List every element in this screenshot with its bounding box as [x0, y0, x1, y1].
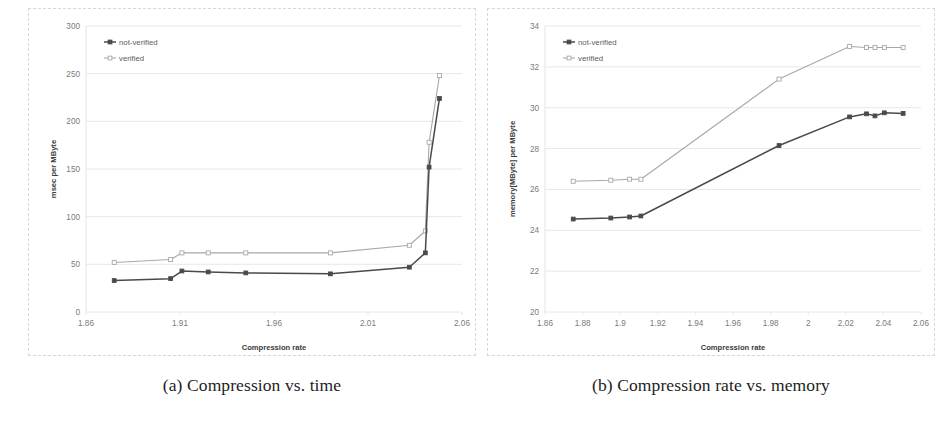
y-tick-label: 20: [530, 308, 540, 317]
y-tick-label: 0: [75, 308, 80, 317]
figure-container: 0501001502002503001.861.911.962.012.06Co…: [0, 0, 941, 429]
data-point-marker: [206, 270, 210, 274]
data-point-marker: [873, 45, 877, 49]
data-point-marker: [423, 251, 427, 255]
data-point-marker: [609, 178, 613, 182]
y-tick-label: 28: [530, 145, 540, 154]
x-tick-label: 1.88: [575, 319, 591, 328]
x-tick-label: 1.96: [266, 319, 282, 328]
y-tick-label: 50: [71, 260, 81, 269]
x-tick-label: 2.04: [875, 319, 891, 328]
x-tick-label: 2.06: [913, 319, 929, 328]
legend-label-verified: verified: [578, 54, 603, 63]
data-point-marker: [882, 111, 886, 115]
y-tick-label: 32: [530, 63, 540, 72]
caption-b: (b) Compression rate vs. memory: [487, 375, 935, 396]
data-point-marker: [438, 97, 442, 101]
y-axis-title: msec per MByte: [49, 140, 58, 198]
y-tick-label: 300: [66, 22, 80, 31]
legend-label-not-verified: not-verified: [119, 38, 158, 47]
data-point-marker: [865, 112, 869, 116]
data-point-marker: [169, 258, 173, 262]
x-tick-label: 1.86: [537, 319, 553, 328]
data-point-marker: [901, 112, 905, 116]
chart-panel-b: 20222426283032341.861.881.91.921.941.961…: [487, 8, 935, 363]
data-point-marker: [882, 45, 886, 49]
data-point-marker: [427, 140, 431, 144]
x-tick-label: 1.94: [687, 319, 703, 328]
data-point-marker: [864, 45, 868, 49]
x-tick-label: 1.92: [650, 319, 666, 328]
data-point-marker: [628, 215, 632, 219]
y-tick-label: 34: [530, 22, 540, 31]
y-tick-label: 250: [66, 70, 80, 79]
x-axis-title: Compression rate: [242, 343, 307, 352]
x-tick-label: 2.01: [360, 319, 376, 328]
data-point-marker: [112, 260, 116, 264]
chart-a-svg: 0501001502002503001.861.911.962.012.06Co…: [28, 8, 476, 356]
y-tick-label: 26: [530, 185, 540, 194]
data-point-marker: [169, 277, 173, 281]
data-point-marker: [848, 115, 852, 119]
caption-a: (a) Compression vs. time: [28, 375, 476, 396]
y-tick-label: 22: [530, 267, 540, 276]
x-tick-label: 1.96: [725, 319, 741, 328]
x-tick-label: 2.02: [838, 319, 854, 328]
data-point-marker: [407, 243, 411, 247]
data-point-marker: [180, 269, 184, 273]
data-point-marker: [180, 251, 184, 255]
series-line-not-verified: [573, 113, 903, 219]
data-point-marker: [206, 251, 210, 255]
data-point-marker: [628, 177, 632, 181]
data-point-marker: [777, 144, 781, 148]
data-point-marker: [112, 279, 116, 283]
data-point-marker: [437, 74, 441, 78]
y-tick-label: 200: [66, 117, 80, 126]
y-tick-label: 24: [530, 226, 540, 235]
data-point-marker: [329, 272, 333, 276]
data-point-marker: [244, 271, 248, 275]
data-point-marker: [901, 45, 905, 49]
x-tick-label: 2: [806, 319, 811, 328]
data-point-marker: [639, 214, 643, 218]
x-tick-label: 1.9: [615, 319, 627, 328]
y-tick-label: 30: [530, 104, 540, 113]
legend-label-verified: verified: [119, 54, 144, 63]
data-point-marker: [777, 77, 781, 81]
chart-b-svg: 20222426283032341.861.881.91.921.941.961…: [487, 8, 935, 356]
data-point-marker: [571, 217, 575, 221]
data-point-marker: [244, 251, 248, 255]
legend-label-not-verified: not-verified: [578, 38, 617, 47]
x-tick-label: 1.86: [78, 319, 94, 328]
x-axis-title: Compression rate: [701, 343, 766, 352]
y-tick-label: 150: [66, 165, 80, 174]
data-point-marker: [328, 251, 332, 255]
x-tick-label: 1.91: [172, 319, 188, 328]
y-axis-title: memory[MByte] per MByte: [508, 121, 517, 217]
data-point-marker: [848, 44, 852, 48]
x-tick-label: 1.98: [763, 319, 779, 328]
data-point-marker: [873, 114, 877, 118]
data-point-marker: [571, 179, 575, 183]
x-tick-label: 2.06: [454, 319, 470, 328]
data-point-marker: [609, 216, 613, 220]
y-tick-label: 100: [66, 213, 80, 222]
data-point-marker: [427, 165, 431, 169]
chart-panel-a: 0501001502002503001.861.911.962.012.06Co…: [28, 8, 476, 363]
data-point-marker: [407, 265, 411, 269]
data-point-marker: [639, 177, 643, 181]
